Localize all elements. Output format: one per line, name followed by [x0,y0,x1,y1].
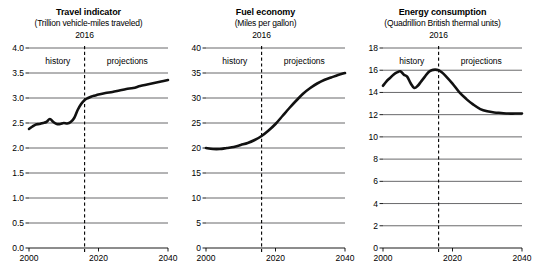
x-axis-tick-label: 2000 [186,253,226,263]
y-axis-tick-label: 10 [177,193,201,203]
y-axis-tick-label: 18 [354,43,378,53]
y-axis-tick-label: 3.0 [0,93,24,103]
y-axis-tick-label: 3.5 [0,68,24,78]
chart-plot-area [0,0,177,276]
chart-panel-2: Fuel economy(Miles per gallon)2016051015… [177,0,354,276]
y-axis-tick-label: 16 [354,65,378,75]
y-axis-tick-label: 1.5 [0,168,24,178]
y-axis-tick-label: 12 [354,110,378,120]
projections-label: projections [442,56,521,66]
y-axis-tick-label: 8 [354,154,378,164]
projections-label: projections [265,56,344,66]
y-axis-tick-label: 0 [354,243,378,253]
chart-plot-area [354,0,531,276]
chart-panel-1: Travel indicator(Trillion vehicle-miles … [0,0,177,276]
data-series-line [383,70,522,114]
data-series-line [29,80,168,129]
y-axis-tick-label: 35 [177,68,201,78]
y-axis-tick-label: 0 [177,243,201,253]
history-label: history [34,56,82,66]
x-axis-tick-label: 2020 [433,253,473,263]
y-axis-tick-label: 6 [354,176,378,186]
data-series-line [206,73,345,149]
history-label: history [211,56,259,66]
y-axis-tick-label: 0.0 [0,243,24,253]
projections-label: projections [88,56,167,66]
y-axis-tick-label: 2 [354,221,378,231]
y-axis-tick-label: 4 [354,199,378,209]
y-axis-tick-label: 4.0 [0,43,24,53]
y-axis-tick-label: 0.5 [0,218,24,228]
y-axis-tick-label: 20 [177,143,201,153]
chart-panel-3: Energy consumption(Quadrillion British t… [354,0,531,276]
x-axis-tick-label: 2020 [79,253,119,263]
y-axis-tick-label: 2.5 [0,118,24,128]
y-axis-tick-label: 1.0 [0,193,24,203]
y-axis-tick-label: 2.0 [0,143,24,153]
history-label: history [388,56,436,66]
y-axis-tick-label: 10 [354,132,378,142]
y-axis-tick-label: 40 [177,43,201,53]
x-axis-tick-label: 2040 [502,253,536,263]
y-axis-tick-label: 30 [177,93,201,103]
x-axis-tick-label: 2020 [256,253,296,263]
x-axis-tick-label: 2000 [363,253,403,263]
y-axis-tick-label: 15 [177,168,201,178]
y-axis-tick-label: 14 [354,87,378,97]
x-axis-tick-label: 2000 [9,253,49,263]
y-axis-tick-label: 5 [177,218,201,228]
chart-plot-area [177,0,354,276]
y-axis-tick-label: 25 [177,118,201,128]
